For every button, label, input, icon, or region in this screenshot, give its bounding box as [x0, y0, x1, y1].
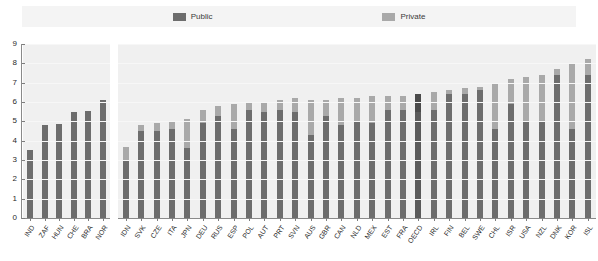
- gridline: [118, 44, 596, 45]
- x-axis-label-slot: ESP: [231, 220, 237, 261]
- bar-segment-private: [123, 147, 129, 160]
- x-axis-tick-mark: [588, 218, 589, 221]
- y-axis: 0123456789: [0, 40, 22, 218]
- x-axis-tick-mark: [280, 218, 281, 221]
- y-axis-tick-mark: [22, 199, 25, 200]
- bar-segment-public: [42, 125, 48, 218]
- bar-deu: [200, 110, 206, 218]
- bar-hun: [56, 124, 62, 218]
- x-axis-tick-mark: [311, 218, 312, 221]
- x-axis-label-slot: EST: [385, 220, 391, 261]
- x-axis-tick-label-aus: AUS: [302, 224, 316, 240]
- x-axis-tick-label-nor: NOR: [94, 224, 109, 241]
- y-axis-tick-label: 3: [13, 156, 17, 164]
- x-axis-tick-label-deu: DEU: [194, 224, 208, 240]
- x-axis-label-slot: JPN: [184, 220, 190, 261]
- x-axis-label-slot: SWE: [477, 220, 483, 261]
- y-axis-tick-mark: [22, 160, 25, 161]
- panel-right: [118, 44, 596, 218]
- bar-svn: [292, 98, 298, 218]
- bar-segment-public: [154, 131, 160, 218]
- legend-entry-public: Public: [173, 13, 213, 21]
- bar-segment-public: [56, 124, 62, 218]
- x-axis-tick-mark: [103, 218, 104, 221]
- x-axis-tick-mark: [388, 218, 389, 221]
- bar-idn: [123, 147, 129, 218]
- bar-segment-private: [261, 102, 267, 112]
- x-axis-tick-mark: [249, 218, 250, 221]
- bar-segment-private: [292, 98, 298, 112]
- bar-segment-public: [431, 110, 437, 218]
- bar-segment-public: [554, 75, 560, 218]
- x-axis-tick-mark: [542, 218, 543, 221]
- x-axis-label-slot: CAN: [338, 220, 344, 261]
- x-axis-tick-mark: [434, 218, 435, 221]
- bar-rus: [215, 106, 221, 218]
- x-axis-line-left: [21, 218, 110, 219]
- x-axis-tick-mark: [187, 218, 188, 221]
- bar-segment-private: [154, 123, 160, 131]
- bar-segment-public: [400, 110, 406, 218]
- y-axis-tick-mark: [22, 141, 25, 142]
- x-axis-label-slot: POL: [246, 220, 252, 261]
- bar-usa: [523, 77, 529, 218]
- x-axis-tick-mark: [480, 218, 481, 221]
- x-axis-tick-label-cze: CZE: [148, 224, 162, 239]
- x-axis-label-slot: DNK: [554, 220, 560, 261]
- x-axis-label-slot: IDN: [123, 220, 129, 261]
- x-axis-tick-mark: [218, 218, 219, 221]
- x-axis-labels-right: IDNSVKCZEITAJPNDEURUSESPPOLAUTPRTSVNAUSG…: [118, 220, 596, 261]
- bar-segment-public: [277, 110, 283, 218]
- legend-swatch-icon-public: [173, 13, 186, 21]
- x-axis-label-slot: SVK: [138, 220, 144, 261]
- bar-mex: [369, 96, 375, 218]
- chart-legend: Public Private: [22, 6, 576, 27]
- panel-left: [23, 44, 110, 218]
- y-axis-tick-label: 7: [13, 79, 17, 87]
- gridline: [23, 44, 110, 45]
- gridline: [118, 141, 596, 142]
- x-axis-label-slot: OECD: [415, 220, 421, 261]
- x-axis-tick-label-isr: ISR: [504, 224, 516, 238]
- x-axis-label-slot: AUT: [261, 220, 267, 261]
- x-axis-tick-label-irl: IRL: [428, 224, 440, 237]
- x-axis-label-slot: BRA: [85, 220, 91, 261]
- bar-segment-public: [71, 112, 77, 218]
- x-axis-tick-label-gbr: GBR: [317, 224, 331, 240]
- x-axis-tick-mark: [172, 218, 173, 221]
- x-axis-label-slot: IRL: [431, 220, 437, 261]
- bar-est: [385, 96, 391, 218]
- x-axis-tick-label-hun: HUN: [51, 224, 65, 240]
- gridline: [118, 179, 596, 180]
- y-axis-tick-mark: [22, 121, 25, 122]
- x-axis-label-slot: NOR: [100, 220, 106, 261]
- bar-segment-public: [585, 75, 591, 218]
- x-axis-label-slot: IND: [27, 220, 33, 261]
- bar-segment-public: [569, 129, 575, 218]
- x-axis-tick-mark: [357, 218, 358, 221]
- bar-group-left: [23, 44, 110, 218]
- x-axis-tick-label-esp: ESP: [226, 224, 240, 239]
- y-axis-tick-mark: [22, 44, 25, 45]
- bar-dnk: [554, 69, 560, 218]
- bar-bra: [85, 111, 91, 218]
- bar-segment-public: [292, 112, 298, 218]
- x-axis-label-slot: ZAF: [42, 220, 48, 261]
- x-axis-tick-label-oecd: OECD: [407, 224, 424, 245]
- x-axis-tick-label-chl: CHL: [487, 224, 501, 239]
- bar-svk: [138, 125, 144, 218]
- bar-segment-public: [123, 160, 129, 218]
- bar-segment-private: [569, 63, 575, 129]
- y-axis-tick-label: 2: [13, 175, 17, 183]
- x-axis-tick-mark: [526, 218, 527, 221]
- bar-nzl: [539, 75, 545, 218]
- gridline: [23, 83, 110, 84]
- bar-segment-public: [246, 110, 252, 218]
- x-axis-label-slot: DEU: [200, 220, 206, 261]
- x-axis-label-slot: HUN: [56, 220, 62, 261]
- bar-segment-public: [385, 110, 391, 218]
- bar-segment-public: [215, 116, 221, 218]
- x-axis-tick-label-can: CAN: [333, 224, 347, 240]
- x-axis-label-slot: CHL: [492, 220, 498, 261]
- x-axis-tick-label-pol: POL: [241, 224, 255, 239]
